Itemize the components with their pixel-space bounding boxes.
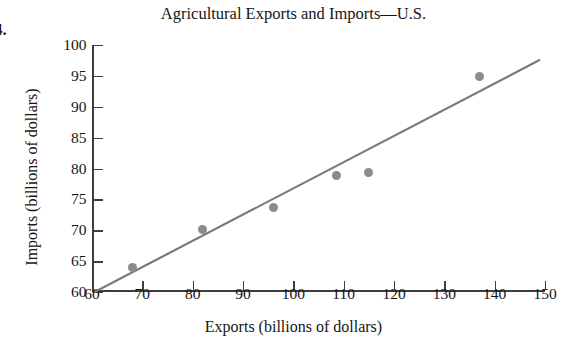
plot-area: 6065707580859095100 60708090100110120130… <box>92 45 545 292</box>
y-tick-label: 80 <box>71 160 87 178</box>
y-tick-label: 70 <box>71 221 87 239</box>
x-axis-title: Exports (billions of dollars) <box>0 318 587 336</box>
data-point <box>364 168 373 177</box>
x-tick: 150 <box>545 281 546 290</box>
data-point <box>128 263 137 272</box>
y-tick-label: 75 <box>71 190 87 208</box>
y-axis-title: Imports (billions of dollars) <box>23 57 41 297</box>
data-point <box>475 72 484 81</box>
y-tick-label: 65 <box>71 252 87 270</box>
trend-line-segment <box>95 60 540 292</box>
y-tick-label: 95 <box>71 67 87 85</box>
data-point <box>269 203 278 212</box>
data-point <box>332 171 341 180</box>
trend-line <box>92 45 545 292</box>
y-tick-label: 100 <box>63 36 86 54</box>
y-tick-label: 85 <box>71 129 87 147</box>
chart-title: Agricultural Exports and Imports—U.S. <box>0 4 587 24</box>
y-tick-label: 90 <box>71 98 87 116</box>
chart-page: 4. Agricultural Exports and Imports—U.S.… <box>0 0 587 352</box>
